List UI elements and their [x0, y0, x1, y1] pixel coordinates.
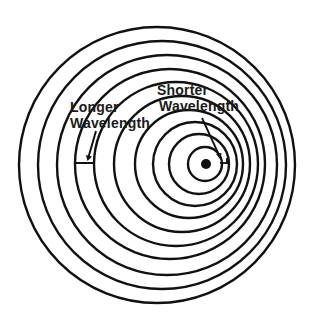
shorter-label-line1: Shorter	[157, 82, 239, 98]
longer-wavelength-label: Longer Wavelength	[70, 99, 150, 131]
shorter-label-line2: Wavelength	[159, 98, 239, 114]
wavefront-circle	[169, 134, 229, 194]
shorter-wavelength-marker	[202, 118, 228, 164]
shorter-wavelength-label: Shorter Wavelength	[157, 82, 239, 114]
longer-label-line2: Wavelength	[70, 115, 150, 131]
shorter-arrow-shaft	[202, 118, 219, 155]
doppler-diagram	[0, 0, 315, 327]
wavefront-circle	[19, 27, 295, 303]
longer-arrow-head	[86, 155, 92, 161]
longer-label-line1: Longer	[70, 99, 150, 115]
wavefronts	[19, 27, 295, 303]
wave-source-dot	[201, 159, 211, 169]
